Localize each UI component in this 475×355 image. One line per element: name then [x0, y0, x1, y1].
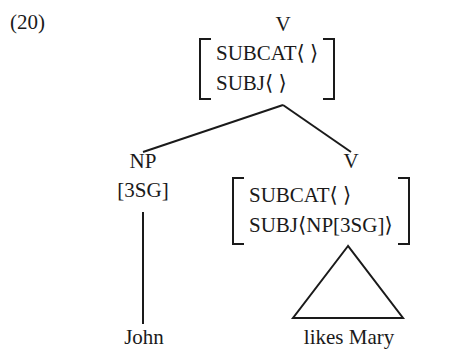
terminal-john: John — [102, 327, 186, 348]
np-feature-label: [3SG] — [112, 180, 174, 201]
matrix-left-bracket-icon — [199, 38, 211, 100]
v-feature-matrix: SUBCAT⟨ ⟩ SUBJ⟨NP[3SG]⟩ — [232, 177, 410, 245]
phrase-triangle-icon — [293, 246, 403, 318]
root-matrix-rows: SUBCAT⟨ ⟩ SUBJ⟨ ⟩ — [216, 38, 318, 100]
root-matrix-row-subcat: SUBCAT⟨ ⟩ — [216, 39, 318, 69]
matrix-left-bracket-icon — [232, 177, 244, 245]
np-category-label: NP — [120, 151, 166, 172]
root-feature-matrix: SUBCAT⟨ ⟩ SUBJ⟨ ⟩ — [199, 38, 335, 100]
v-matrix-rows: SUBCAT⟨ ⟩ SUBJ⟨NP[3SG]⟩ — [249, 177, 393, 245]
v-category-label: V — [330, 151, 372, 172]
example-number: (20) — [10, 12, 45, 33]
v-matrix-row-subj: SUBJ⟨NP[3SG]⟩ — [249, 211, 393, 241]
edge-root-to-np — [143, 105, 283, 152]
v-matrix-row-subcat: SUBCAT⟨ ⟩ — [249, 181, 393, 211]
root-matrix-row-subj: SUBJ⟨ ⟩ — [216, 69, 318, 99]
syntax-tree-diagram: (20) V SUBCAT⟨ ⟩ SUBJ⟨ ⟩ NP [3SG] V SUBC… — [0, 0, 475, 355]
matrix-right-bracket-icon — [323, 38, 335, 100]
terminal-likes-mary: likes Mary — [278, 327, 420, 348]
root-category-label: V — [262, 14, 304, 35]
edge-root-to-v — [283, 105, 351, 152]
matrix-right-bracket-icon — [398, 177, 410, 245]
